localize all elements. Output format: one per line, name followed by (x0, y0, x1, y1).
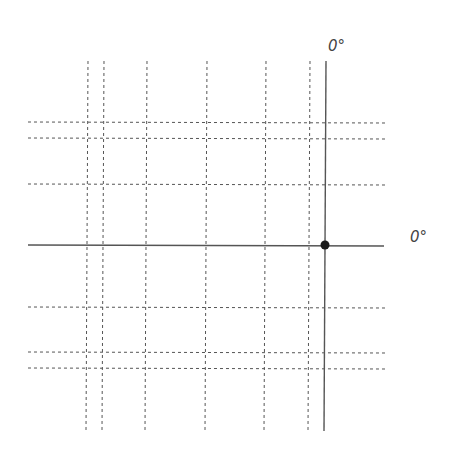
horizontal-gridline (28, 307, 386, 308)
horizontal-gridline (28, 184, 386, 185)
origin-point (321, 241, 330, 250)
vertical-axis-label: 0° (328, 37, 345, 55)
horizontal-axis-label: 0° (410, 228, 427, 246)
horizontal-gridline (28, 352, 386, 353)
horizontal-gridline (28, 368, 386, 369)
vertical-gridline (86, 61, 88, 431)
vertical-gridline (102, 61, 104, 431)
horizontal-gridline (28, 138, 386, 139)
coordinate-grid-diagram: 0° 0° (0, 0, 450, 467)
horizontal-axis-line (28, 245, 384, 246)
